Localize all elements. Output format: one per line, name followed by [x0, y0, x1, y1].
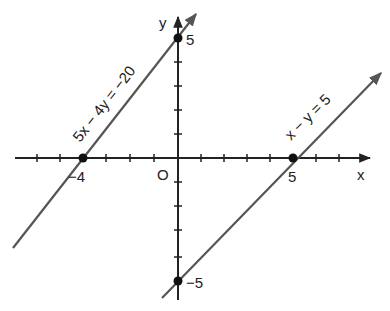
- label-x-intercept-5: 5: [288, 168, 296, 185]
- label-x-intercept-neg4: −4: [68, 168, 85, 185]
- equation-label-2: x − y = 5: [281, 90, 334, 143]
- origin-label: O: [157, 166, 169, 183]
- x-axis-label: x: [357, 166, 365, 183]
- label-y-intercept-5: 5: [186, 31, 194, 48]
- coordinate-plane: y x O −4 5 5 −5 5x − 4y = −20 x − y = 5: [0, 0, 390, 311]
- point-5-0: [289, 154, 298, 163]
- point-0-5: [174, 34, 183, 43]
- label-y-intercept-neg5: −5: [186, 274, 203, 291]
- point-0-neg5: [174, 277, 183, 286]
- x-axis: [15, 154, 370, 162]
- point-neg4-0: [79, 154, 88, 163]
- y-axis-label: y: [159, 14, 167, 31]
